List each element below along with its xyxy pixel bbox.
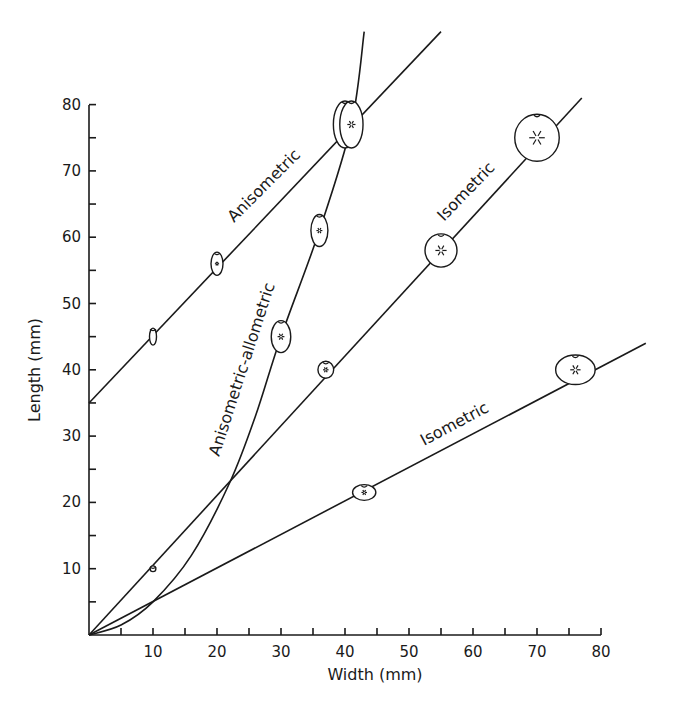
series-line: [89, 32, 364, 635]
fruit-icon: [515, 114, 560, 161]
y-tick-label: 10: [62, 560, 81, 578]
y-axis: 1020304050607080: [62, 96, 96, 635]
label-anisometric-allometric: Anisometric-allometric: [205, 280, 279, 458]
label-isometric-upper: Isometric: [433, 158, 498, 225]
series-line: [89, 32, 441, 403]
label-isometric-lower: Isometric: [417, 398, 492, 450]
series-lines: [89, 32, 646, 635]
x-tick-label: 10: [143, 643, 162, 661]
x-tick-label: 80: [591, 643, 610, 661]
y-axis-title: Length (mm): [25, 318, 44, 422]
label-anisometric: Anisometric: [223, 145, 304, 226]
y-tick-label: 50: [62, 295, 81, 313]
fruit-icon: [318, 361, 334, 378]
x-axis: 1020304050607080: [89, 628, 611, 661]
fruit-icon: [353, 485, 376, 501]
x-tick-label: 30: [271, 643, 290, 661]
y-tick-label: 80: [62, 96, 81, 114]
y-tick-label: 30: [62, 427, 81, 445]
y-tick-label: 20: [62, 493, 81, 511]
x-axis-title: Width (mm): [327, 665, 422, 684]
x-tick-label: 50: [399, 643, 418, 661]
fruit-icon: [311, 215, 328, 247]
x-tick-label: 70: [527, 643, 546, 661]
growth-chart: 1020304050607080 1020304050607080 Length…: [0, 0, 682, 717]
x-tick-label: 20: [207, 643, 226, 661]
fruit-icon: [271, 321, 291, 353]
fruit-icon: [150, 328, 157, 345]
fruit-icon: [340, 101, 363, 148]
x-tick-label: 60: [463, 643, 482, 661]
fruit-icon: [211, 252, 223, 275]
x-tick-label: 40: [335, 643, 354, 661]
y-tick-label: 60: [62, 228, 81, 246]
fruit-icon: [425, 234, 457, 267]
y-tick-label: 70: [62, 162, 81, 180]
fruit-markers: [150, 101, 596, 572]
fruit-icon: [556, 355, 596, 385]
y-tick-label: 40: [62, 361, 81, 379]
series-line: [89, 98, 582, 635]
fruit-icon: [150, 566, 156, 572]
